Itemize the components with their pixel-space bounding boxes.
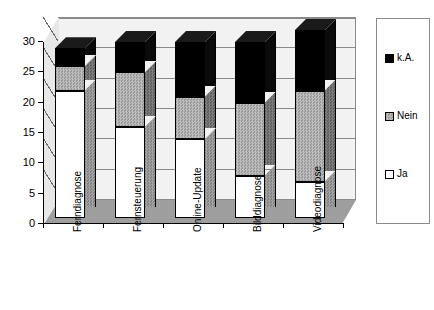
- x-axis-label: Ferndiagnose: [73, 171, 83, 232]
- bar-segment-nein[interactable]: [115, 72, 145, 127]
- plot-area: 051015202530 FerndiagnoseFernsteuerungOn…: [0, 0, 372, 240]
- bar-segment-side-ja: [85, 80, 96, 207]
- x-tick-mark: [223, 223, 224, 228]
- x-axis-label: Online-Update: [193, 168, 203, 232]
- legend-item-nein[interactable]: Nein: [385, 111, 418, 121]
- y-tick: 30: [38, 41, 43, 42]
- y-tick-mark: [38, 132, 43, 133]
- y-tick: 15: [38, 132, 43, 133]
- y-tick-mark: [38, 41, 43, 42]
- bar-segment-ka[interactable]: [235, 42, 265, 103]
- y-axis-line: [43, 42, 44, 224]
- bar-segment-ka[interactable]: [115, 42, 145, 72]
- y-tick: 20: [38, 102, 43, 103]
- x-tick-mark: [103, 223, 104, 228]
- legend-item-ka[interactable]: k.A.: [385, 53, 414, 63]
- y-tick-label: 0: [29, 218, 35, 229]
- x-axis-label: Bilddiagnose: [253, 175, 263, 232]
- chart-legend: k.A.NeinJa: [376, 18, 430, 224]
- x-tick-mark: [283, 223, 284, 228]
- x-axis-label: Videodiagnose: [313, 166, 323, 232]
- bar-segment-side-ja: [205, 128, 216, 207]
- legend-label: k.A.: [397, 53, 414, 63]
- y-tick-label: 5: [29, 188, 35, 199]
- y-tick-label: 30: [23, 36, 35, 47]
- gray-square-icon: [385, 112, 394, 121]
- x-tick-mark: [163, 223, 164, 228]
- y-tick-label: 20: [23, 97, 35, 108]
- y-tick-mark: [38, 193, 43, 194]
- y-tick-label: 25: [23, 66, 35, 77]
- y-tick-label: 10: [23, 157, 35, 168]
- y-tick-mark: [38, 102, 43, 103]
- y-tick: 10: [38, 162, 43, 163]
- legend-label: Ja: [397, 169, 408, 179]
- stacked-bar-chart: 051015202530 FerndiagnoseFernsteuerungOn…: [0, 0, 434, 310]
- legend-label: Nein: [397, 111, 418, 121]
- bar-segment-side-ja: [145, 116, 156, 207]
- bar-segment-ka[interactable]: [175, 42, 205, 97]
- bar-segment-nein[interactable]: [55, 66, 85, 90]
- y-tick-mark: [38, 162, 43, 163]
- legend-item-ja[interactable]: Ja: [385, 169, 408, 179]
- y-tick: 25: [38, 71, 43, 72]
- bar-segment-side-nein: [265, 92, 276, 165]
- y-tick: 5: [38, 193, 43, 194]
- bar-segment-side-nein: [325, 80, 336, 171]
- x-axis-label: Fernsteuerung: [133, 167, 143, 232]
- y-tick-label: 15: [23, 127, 35, 138]
- bar-segment-nein[interactable]: [235, 103, 265, 176]
- black-square-icon: [385, 54, 394, 63]
- bar-segment-nein[interactable]: [175, 97, 205, 139]
- y-tick-mark: [38, 71, 43, 72]
- bar-segment-ka[interactable]: [295, 30, 325, 91]
- x-tick-mark: [43, 223, 44, 228]
- bar-segment-ka[interactable]: [55, 48, 85, 66]
- x-tick-mark: [343, 223, 344, 228]
- white-square-icon: [385, 170, 394, 179]
